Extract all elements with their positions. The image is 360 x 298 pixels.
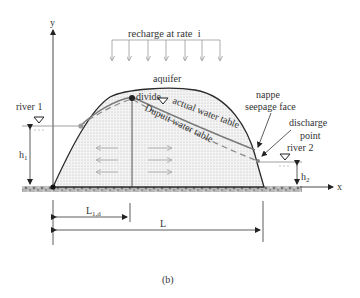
L-label: L <box>160 218 166 229</box>
river2-water-symbol <box>280 154 290 160</box>
origin-dot <box>50 184 55 189</box>
nappe-label: nappe <box>256 89 280 100</box>
aquifer-label: aquifer <box>153 73 182 84</box>
recharge-label: recharge at rate i <box>128 28 201 39</box>
figure-caption: (b) <box>162 274 174 286</box>
river1-contact-dot <box>78 123 83 128</box>
divide-label: divide <box>136 91 162 102</box>
seepage-pointer <box>258 113 271 147</box>
divide-dot <box>129 95 135 101</box>
river1-water-symbol <box>34 117 44 123</box>
point-label: point <box>300 130 321 141</box>
river1-label: river 1 <box>16 101 42 112</box>
h2-label: h2 <box>301 171 310 184</box>
seepage-face-label: seepage face <box>245 101 296 112</box>
recharge-arrows <box>112 40 220 60</box>
y-axis-label: y <box>50 17 55 28</box>
x-axis-label: x <box>337 181 342 192</box>
L1d-label: L1,d <box>86 205 101 218</box>
river2-label: river 2 <box>287 142 313 153</box>
aquifer-diagram: y x recharge at rate i aquifer divide ac… <box>0 0 360 298</box>
h1-label: h1 <box>19 149 28 162</box>
discharge-label: discharge <box>289 117 328 128</box>
